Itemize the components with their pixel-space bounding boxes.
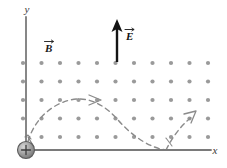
- field-dot: [206, 135, 210, 139]
- figure-canvas: x y E B: [0, 0, 227, 168]
- field-dot: [95, 61, 99, 65]
- field-dot: [76, 79, 80, 83]
- charged-particle: [18, 142, 35, 159]
- field-dot: [150, 116, 154, 120]
- dot-row: [39, 135, 210, 139]
- electric-field-vector: [112, 19, 123, 62]
- field-dot: [169, 98, 173, 102]
- field-dot: [39, 61, 43, 65]
- field-dot: [95, 135, 99, 139]
- field-dot: [39, 135, 43, 139]
- field-dot: [113, 98, 117, 102]
- b-field-label-group: B: [44, 40, 54, 54]
- field-dot: [187, 135, 191, 139]
- field-dot: [76, 116, 80, 120]
- e-field-label: E: [125, 30, 133, 42]
- field-dot: [21, 98, 25, 102]
- field-dot: [58, 61, 62, 65]
- field-dot: [58, 135, 62, 139]
- coordinate-axes: [26, 17, 211, 150]
- field-dot: [113, 79, 117, 83]
- field-dot: [150, 79, 154, 83]
- field-dot: [39, 98, 43, 102]
- field-dot: [113, 135, 117, 139]
- field-dot: [150, 98, 154, 102]
- field-dot: [132, 116, 136, 120]
- field-dot: [21, 116, 25, 120]
- field-dot: [76, 135, 80, 139]
- dot-row: [21, 79, 210, 83]
- field-dot: [206, 98, 210, 102]
- field-dot: [21, 61, 25, 65]
- field-dot: [206, 61, 210, 65]
- field-dot: [169, 61, 173, 65]
- field-dot: [206, 116, 210, 120]
- field-dot: [132, 61, 136, 65]
- field-dot: [150, 135, 154, 139]
- trajectory-arch-second: [166, 116, 193, 150]
- field-dot: [169, 116, 173, 120]
- e-field-label-group: E: [125, 28, 134, 42]
- field-dot: [187, 79, 191, 83]
- b-field-label: B: [44, 42, 52, 54]
- field-dot: [39, 79, 43, 83]
- dot-row: [21, 98, 210, 102]
- field-dot: [132, 79, 136, 83]
- field-dot: [58, 116, 62, 120]
- x-axis-label: x: [212, 144, 218, 156]
- field-dot: [132, 98, 136, 102]
- field-dot: [187, 61, 191, 65]
- physics-figure: x y E B: [0, 0, 227, 168]
- field-dot: [58, 98, 62, 102]
- particle-trajectory: [26, 99, 193, 150]
- field-dot: [76, 61, 80, 65]
- field-dot: [95, 79, 99, 83]
- field-dot: [150, 61, 154, 65]
- field-dot: [169, 79, 173, 83]
- y-axis-label: y: [24, 3, 30, 15]
- field-dot: [187, 98, 191, 102]
- field-dot: [58, 79, 62, 83]
- dot-row: [21, 61, 210, 65]
- field-dot: [95, 116, 99, 120]
- trajectory-arch-first: [26, 99, 166, 150]
- field-dot: [206, 79, 210, 83]
- field-dot: [21, 79, 25, 83]
